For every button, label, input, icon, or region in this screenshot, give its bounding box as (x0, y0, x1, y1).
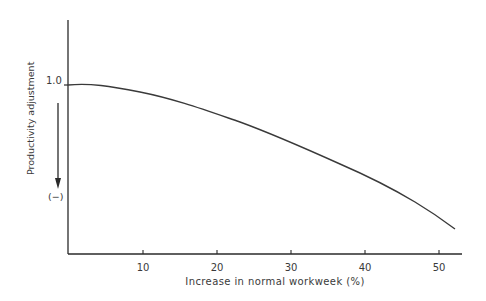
x-tick-label-10: 10 (137, 262, 150, 273)
productivity-curve (68, 84, 455, 229)
minus-label: (−) (48, 191, 63, 202)
x-tick-label-50: 50 (433, 262, 446, 273)
x-axis-label: Increase in normal workweek (%) (185, 276, 364, 287)
down-arrow-icon (55, 178, 61, 189)
y-axis-label: Productivity adjustment (25, 61, 36, 175)
x-tick-label-20: 20 (211, 262, 224, 273)
y-tick-label-1: 1.0 (46, 75, 62, 86)
chart: 1.0 (−) Productivity adjustment 10 20 30… (0, 0, 486, 301)
x-tick-label-30: 30 (285, 262, 298, 273)
x-tick-label-40: 40 (359, 262, 372, 273)
